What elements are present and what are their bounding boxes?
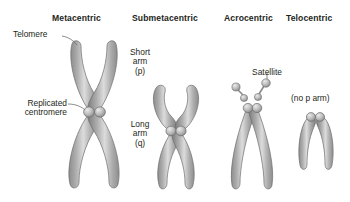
submetacentric-centromere-left (166, 126, 176, 136)
label-no-p-arm: (no p arm) (291, 94, 330, 103)
label-replicated-centromere: Replicated centromere (0, 99, 67, 118)
acrocentric-short-arm-left (240, 95, 247, 102)
metacentric-centromere-right (95, 107, 106, 117)
label-telomere: Telomere (13, 30, 47, 39)
telocentric-centromere-left (306, 113, 315, 122)
column-title-metacentric: Metacentric (52, 14, 101, 24)
label-satellite: Satellite (241, 68, 293, 77)
acrocentric-short-arm-right (254, 94, 261, 101)
column-title-telocentric: Telocentric (286, 14, 332, 24)
telocentric-centromere-right (315, 113, 324, 122)
acrocentric-centromere-left (243, 103, 253, 112)
column-title-acrocentric: Acrocentric (224, 14, 273, 24)
acrocentric-satellite-right (262, 79, 271, 87)
label-long-arm: Long arm (q) (118, 120, 162, 148)
column-title-submetacentric: Submetacentric (132, 14, 198, 24)
acrocentric-satellite-left (232, 83, 240, 91)
acrocentric-centromere-right (252, 103, 262, 112)
submetacentric-centromere-right (176, 126, 186, 136)
metacentric-centromere-left (84, 107, 95, 117)
label-short-arm: Short arm (p) (118, 48, 162, 76)
